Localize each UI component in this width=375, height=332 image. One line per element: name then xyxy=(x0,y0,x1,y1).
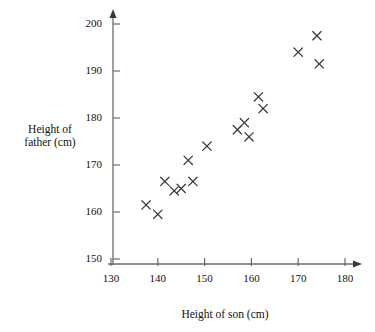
data-point-marker xyxy=(240,119,248,127)
scatter-plot-figure: Height of father (cm) Height of son (cm)… xyxy=(0,0,375,332)
data-point-marker xyxy=(259,104,267,112)
data-point-marker xyxy=(184,156,192,164)
x-tick-label: 160 xyxy=(238,272,264,284)
plot-canvas xyxy=(0,0,375,332)
x-tick-label: 150 xyxy=(192,272,218,284)
data-point-marker xyxy=(142,201,150,209)
data-point-marker xyxy=(313,32,321,40)
data-point-marker xyxy=(315,60,323,68)
y-axis xyxy=(110,9,117,265)
data-point-marker xyxy=(189,177,197,185)
x-tick-label: 170 xyxy=(285,272,311,284)
data-point-marker xyxy=(245,133,253,141)
data-point-marker xyxy=(203,142,211,150)
data-point-marker xyxy=(170,187,178,195)
data-point-marker xyxy=(294,48,302,56)
y-axis-ticks xyxy=(113,24,120,259)
y-tick-label: 200 xyxy=(76,17,102,29)
y-tick-label: 170 xyxy=(76,158,102,170)
x-tick-label: 140 xyxy=(145,272,171,284)
y-tick-label: 160 xyxy=(76,205,102,217)
data-point-marker xyxy=(161,177,169,185)
y-tick-label: 190 xyxy=(76,64,102,76)
x-tick-label: 180 xyxy=(332,272,358,284)
y-tick-label: 150 xyxy=(76,252,102,264)
y-tick-label: 180 xyxy=(76,111,102,123)
x-axis xyxy=(108,261,362,268)
x-axis-label: Height of son (cm) xyxy=(150,308,300,321)
data-markers xyxy=(142,32,324,219)
x-tick-label: 130 xyxy=(98,272,124,284)
x-axis-ticks xyxy=(111,258,345,266)
y-axis-label: Height of father (cm) xyxy=(2,123,98,149)
data-point-marker xyxy=(154,210,162,218)
data-point-marker xyxy=(177,184,185,192)
data-point-marker xyxy=(254,93,262,101)
